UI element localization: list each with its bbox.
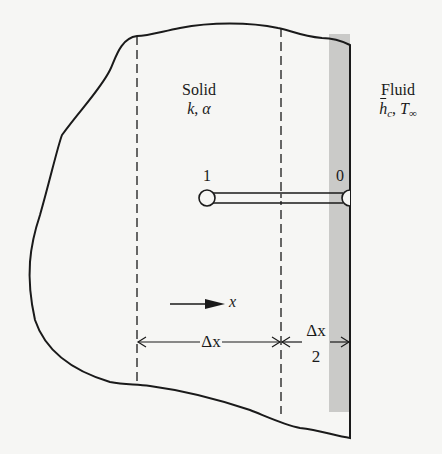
node-1-label: 1 (203, 168, 211, 184)
x-axis-label: x (229, 294, 236, 310)
fluid-label: Fluid (381, 82, 415, 98)
half-dx-denominator: 2 (312, 348, 321, 365)
x-axis-arrowhead (205, 299, 225, 309)
heat-conduction-diagram (0, 0, 442, 454)
half-dx-numerator: Δx (306, 322, 325, 339)
node-1-marker (199, 190, 215, 206)
node-0-label: 0 (336, 168, 344, 184)
surface-element-shading (329, 34, 350, 412)
h-bar-symbol: h (379, 101, 387, 117)
solid-properties-label: k, α (187, 101, 211, 117)
dx-dimension-label: Δx (201, 333, 220, 350)
fluid-properties-label: hc, T∞ (379, 101, 417, 119)
solid-label: Solid (182, 82, 216, 98)
